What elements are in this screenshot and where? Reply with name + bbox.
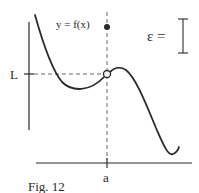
function-label: y = f(x) [56,18,90,31]
figure-caption: Fig. 12 [28,179,65,193]
open-circle-hole [104,71,111,78]
point-label-a: a [103,170,109,185]
limit-diagram: y = f(x) L a ε = Fig. 12 [0,0,199,193]
filled-dot-f-of-a [104,24,110,30]
epsilon-label: ε = [147,28,166,44]
epsilon-bracket [178,19,188,53]
limit-label-L: L [10,67,18,82]
